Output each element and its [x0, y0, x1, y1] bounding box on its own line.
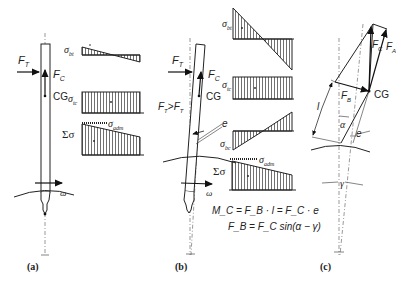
- force-centrifugal-label-c: FC: [372, 39, 383, 52]
- tool-body-a: [41, 44, 50, 192]
- rotation-label-b: ω: [206, 188, 212, 198]
- force-bending-arrow-c: [335, 82, 368, 91]
- panel-c: FC FA FB CG l α e γ (c): [311, 24, 396, 273]
- stress-label-bt-a: σbt: [64, 44, 74, 57]
- panel-a: FT FC CG ω (a) σbt σtc σadm Σσ: [14, 33, 144, 273]
- caption-c: (c): [320, 261, 331, 273]
- cg-label-a: CG: [53, 91, 68, 102]
- force-bending-label-c: FB: [341, 90, 351, 103]
- stress-label-tc-b: σtc: [222, 79, 232, 92]
- force-axial-label-c: FA: [386, 41, 396, 54]
- tool-stress-figure: FT FC CG ω (a) σbt σtc σadm Σσ: [0, 0, 405, 284]
- eccentricity-label-c: e: [356, 128, 362, 139]
- gamma-label-c: γ: [340, 178, 345, 189]
- force-centrifugal-label-a: FC: [53, 68, 66, 82]
- force-tangential-label-b: FT: [172, 54, 184, 68]
- stress-label-tc-a: σtc: [68, 93, 78, 106]
- equation-bending-force: F_B = F_C sin(α − γ): [228, 221, 321, 232]
- eccentricity-label-b: e: [222, 118, 228, 129]
- panel-b: FT FC CG FT>FT e ω (b) σbt σtc σbc: [158, 8, 321, 273]
- stress-limit-label-b: σadm: [259, 154, 275, 167]
- equation-moment: M_C = F_B · l = F_C · e: [212, 205, 319, 216]
- caption-a: (a): [27, 261, 39, 273]
- alpha-label-c: α: [340, 119, 346, 130]
- stress-label-bt-b: σbt: [222, 18, 232, 31]
- cg-label-b: CG: [206, 91, 221, 102]
- length-label-c: l: [317, 101, 320, 112]
- condition-label-b: FT>FT: [158, 101, 185, 114]
- stress-label-sum-a: Σσ: [62, 128, 74, 140]
- tool-body-b: [185, 44, 205, 192]
- stress-label-bc-b: σbc: [220, 138, 231, 151]
- cg-label-c: CG: [374, 89, 389, 100]
- caption-b: (b): [175, 261, 187, 273]
- rotation-label-a: ω: [60, 188, 66, 198]
- force-tangential-label-a: FT: [18, 54, 30, 68]
- stress-label-sum-b: Σσ: [213, 165, 225, 177]
- stress-limit-label-a: σadm: [108, 118, 124, 131]
- workpiece-arc-b: [163, 156, 236, 163]
- tool-tip-a: [41, 192, 50, 214]
- force-centrifugal-label-b: FC: [208, 68, 221, 82]
